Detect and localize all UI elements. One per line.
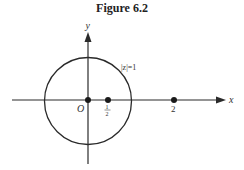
one-half-denominator: 2: [106, 111, 109, 117]
x-axis-arrow-icon: [216, 97, 226, 104]
y-axis-label: y: [85, 20, 91, 31]
circle-label: |z|=1: [121, 63, 136, 72]
point-one-half: [105, 97, 111, 103]
one-half-numerator: 1: [106, 104, 109, 110]
complex-plane-diagram: x y |z|=1 O 1 2 2: [0, 0, 244, 170]
origin-point: [85, 97, 91, 103]
point-two: [171, 97, 177, 103]
x-axis-label: x: [228, 94, 234, 105]
origin-label: O: [77, 103, 84, 114]
y-axis-arrow-icon: [85, 32, 92, 42]
point-two-label: 2: [171, 104, 176, 114]
